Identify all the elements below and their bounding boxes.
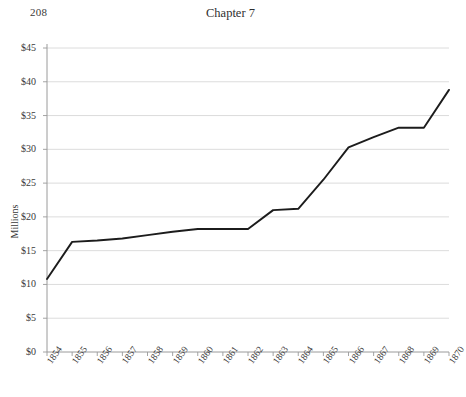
chapter-title: Chapter 7 [0, 6, 461, 21]
running-head: 208 Chapter 7 [0, 6, 461, 24]
y-axis-ticks [43, 48, 47, 352]
gridlines [47, 48, 449, 318]
line-chart-figure: Millions $0$5$10$15$20$25$30$35$40$45 18… [0, 30, 461, 397]
chart-plot-area [0, 30, 461, 397]
